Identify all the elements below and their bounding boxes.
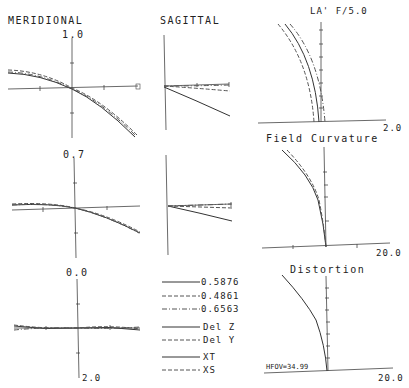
sagittal-0.7-plot <box>166 155 232 255</box>
legend-item-del-y: Del Y <box>162 335 235 345</box>
field-curvature-scale: 20.0 <box>376 248 402 258</box>
la-title: LA' F/5.0 <box>310 6 368 16</box>
svg-text:Del Y: Del Y <box>203 335 235 345</box>
longitudinal-aberration-plot: LA' F/5.0 2.0 <box>258 6 402 133</box>
distortion-scale: 20.0 <box>378 373 404 383</box>
svg-text:XT: XT <box>203 352 216 362</box>
sagittal-1.0-plot <box>164 35 230 130</box>
distortion-title: Distortion <box>290 264 365 275</box>
svg-text:0.6563: 0.6563 <box>201 304 240 314</box>
legend-item-0.5876: 0.5876 <box>162 277 240 287</box>
distortion-plot: Distortion HFOV=34.99 20.0 <box>264 264 404 383</box>
la-scale: 2.0 <box>383 123 402 133</box>
legend-item-del-z: Del Z <box>162 322 235 332</box>
legend-item-xs: XS <box>162 365 216 375</box>
sagittal-title: SAGITTAL <box>160 15 220 26</box>
legend-item-0.4861: 0.4861 <box>162 291 240 301</box>
field-label-1.0: 1.0 <box>62 29 85 40</box>
field-label-0.0: 0.0 <box>66 267 89 278</box>
svg-text:Del Z: Del Z <box>203 322 235 332</box>
meridional-0.7-plot: 0.7 <box>12 149 140 258</box>
svg-text:0.5876: 0.5876 <box>201 277 240 287</box>
field-curvature-plot: Field Curvature 20.0 <box>262 133 402 258</box>
scale-label-2.0: 2.0 <box>82 373 101 383</box>
meridional-0.0-plot: 0.0 2.0 <box>14 267 140 383</box>
legend: 0.5876 0.4861 0.6563 Del Z Del Y XT XS <box>162 277 240 375</box>
hfov-label: HFOV=34.99 <box>266 363 308 371</box>
meridional-1.0-plot: 1.0 <box>8 29 140 138</box>
svg-text:0.4861: 0.4861 <box>201 291 240 301</box>
legend-item-xt: XT <box>162 352 216 362</box>
svg-text:XS: XS <box>203 365 216 375</box>
field-curvature-title: Field Curvature <box>266 133 379 144</box>
legend-item-0.6563: 0.6563 <box>162 304 240 314</box>
meridional-title: MERIDIONAL <box>8 15 83 26</box>
aberration-plots: MERIDIONAL SAGITTAL 1.0 LA' F/5.0 <box>0 0 409 388</box>
